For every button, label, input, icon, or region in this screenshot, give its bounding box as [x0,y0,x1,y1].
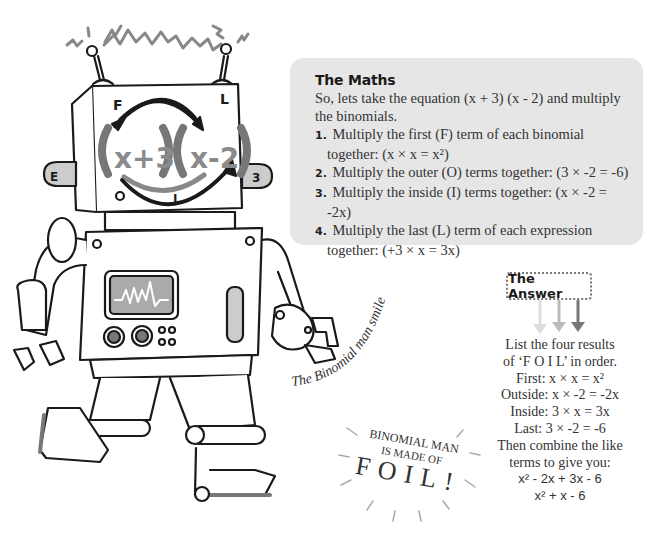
maths-panel: The Maths So, lets take the equation (x … [290,58,643,245]
answer-line: List the four results [475,337,645,354]
step-text: Multiply the last (L) term of each expre… [327,222,592,258]
answer-line: First: x × x = x² [475,371,645,388]
step-text: Multiply the inside (I) terms together: … [327,184,607,220]
maths-step: 2. Multiply the outer (O) terms together… [315,163,629,183]
answer-line: terms to give you: [475,455,645,472]
answer-line: x² + x - 6 [475,488,645,505]
ear-left-glyph: E [50,170,58,184]
maths-step: 3. Multiply the inside (I) terms togethe… [315,183,629,221]
answer-line: Last: 3 × -2 = -6 [475,421,645,438]
answer-line: Outside: x × -2 = -2x [475,387,645,404]
answer-line: Inside: 3 × x = 3x [475,404,645,421]
curved-caption: The Binomial man smiles! [250,290,430,420]
face-binomial-left: x+3 [114,142,175,175]
answer-line: x² - 2x + 3x - 6 [475,471,645,488]
maths-step: 4. Multiply the last (L) term of each ex… [315,221,629,259]
foil-burst-caption: BINOMIAL MAN IS MADE OF FOIL! [335,425,485,535]
face-label-first: F [113,97,123,113]
step-number: 4. [315,225,327,238]
step-text: Multiply the first (F) term of each bino… [327,126,584,162]
maths-steps-list: 1. Multiply the first (F) term of each b… [315,125,629,259]
maths-panel-title: The Maths [315,72,629,88]
step-number: 3. [315,187,327,200]
face-label-last: L [220,91,229,107]
step-number: 1. [315,129,327,142]
curved-caption-text: The Binomial man smiles! [250,290,388,389]
answer-line: of ‘F O I L’ in order. [475,354,645,371]
step-number: 2. [315,167,327,180]
answer-text: List the four results of ‘F O I L’ in or… [475,337,645,505]
ear-right-glyph: 3 [252,171,260,185]
down-arrows-icon [528,300,588,336]
face-label-inside: I [173,192,177,206]
step-text: Multiply the outer (O) terms together: (… [332,164,628,180]
svg-text:The Binomial man smiles!: The Binomial man smiles! [250,290,388,389]
maths-panel-intro: So, lets take the equation (x + 3) (x - … [315,89,629,125]
answer-label-box: The Answer [506,272,592,300]
face-binomial-right: x-2 [190,142,239,175]
maths-step: 1. Multiply the first (F) term of each b… [315,125,629,163]
answer-line: Then combine the like [475,438,645,455]
